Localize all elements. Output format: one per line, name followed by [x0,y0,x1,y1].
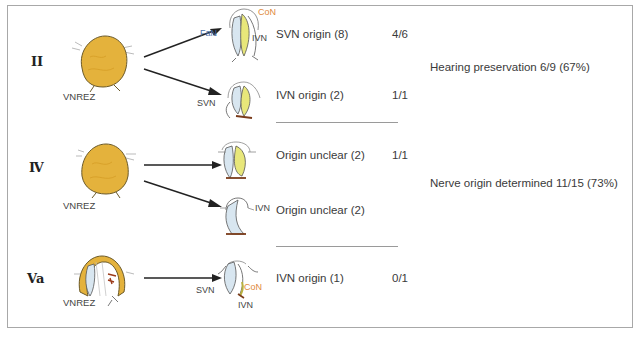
arrow-ii-lower [144,68,224,98]
outcome-text: IVN origin (2) [276,89,344,101]
tumor-label-iv: VNREZ [63,200,95,211]
nerve-label-svn: SVN [196,285,215,295]
outcome-text: Origin unclear (2) [276,149,365,161]
nerve-label-ivn: IVN [252,33,267,43]
arrow-iv-upper [144,160,224,170]
nerve-drawing-ii-ivn [218,80,266,118]
nerve-label-con: CoN [258,7,276,17]
nerve-label-fan: FaN [200,28,217,38]
arrow-iv-lower [144,180,224,210]
tumor-label-ii: VNREZ [63,91,95,102]
nerve-label-ivn: IVN [238,300,253,310]
type-label-va: Va [27,271,44,286]
nerve-drawing-iv-unclear-2 [214,196,258,238]
nerve-label-ivn: IVN [255,203,270,213]
outcome-text: SVN origin (8) [276,28,348,40]
nerve-drawing-va-ivn [214,258,260,298]
tumor-label-va: VNREZ [63,297,95,308]
separator [276,122,398,123]
type-label-iv: Ⅳ [29,160,44,175]
outcome-ratio: 1/1 [392,89,408,101]
nerve-label-con: CoN [244,282,262,292]
outcome-ratio: 4/6 [392,28,408,40]
separator [276,246,398,247]
outcome-text: IVN origin (1) [276,272,344,284]
outcome-ratio: 1/1 [392,149,408,161]
type-label-ii: II [31,54,43,69]
arrow-va [144,273,224,283]
nerve-label-svn: SVN [197,98,216,108]
summary-nerve-origin: Nerve origin determined 11/15 (73%) [430,177,618,189]
tumor-drawing-ii [70,32,140,92]
nerve-drawing-iv-unclear-1 [214,140,258,182]
outcome-text: Origin unclear (2) [276,204,365,216]
tumor-drawing-iv [76,142,136,200]
outcome-ratio: 0/1 [392,272,408,284]
summary-hearing: Hearing preservation 6/9 (67%) [430,61,590,73]
